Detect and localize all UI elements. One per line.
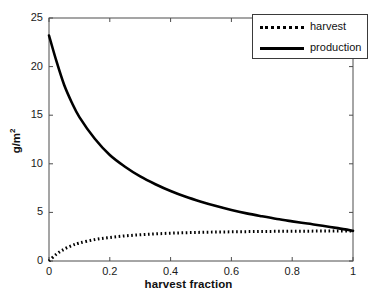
series-line-production: [49, 36, 353, 231]
chart-figure: 0510152025 00.20.40.60.81 harvest fracti…: [0, 0, 377, 300]
x-tick-label: 0.4: [151, 266, 191, 277]
legend-swatch-production: [260, 47, 304, 50]
x-tick-label: 0.2: [90, 266, 130, 277]
legend-label-production: production: [310, 41, 361, 53]
legend-swatch-harvest: [260, 26, 304, 29]
x-axis-label: harvest fraction: [0, 278, 377, 290]
legend-item-production[interactable]: production: [253, 37, 369, 59]
y-tick-label: 25: [1, 12, 43, 23]
x-tick-label: 0.8: [272, 266, 312, 277]
legend-item-harvest[interactable]: harvest: [253, 16, 369, 38]
series-line-harvest: [49, 231, 353, 261]
y-axis-label-wrap: g/m2: [2, 108, 28, 178]
y-axis-label: g/m2: [8, 112, 22, 170]
legend-label-harvest: harvest: [310, 20, 346, 32]
chart-legend[interactable]: harvest production: [252, 14, 368, 59]
y-tick-label: 20: [1, 61, 43, 72]
y-tick-label: 0: [1, 255, 43, 266]
y-tick-label: 5: [1, 206, 43, 217]
x-tick-label: 0.6: [211, 266, 251, 277]
y-axis-label-text: g/m: [10, 133, 22, 153]
y-axis-label-exponent: 2: [8, 128, 17, 132]
x-tick-label: 0: [29, 266, 69, 277]
x-tick-label: 1: [333, 266, 373, 277]
